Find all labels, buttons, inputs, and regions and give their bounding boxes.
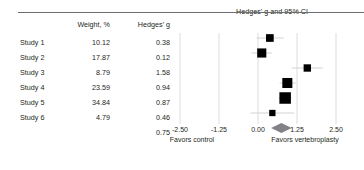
x-tick-label: 0.00 — [251, 126, 265, 133]
forest-plot-figure: Hedges' g and 95% CI Weight, % Hedges' g… — [0, 0, 364, 170]
axis-label-favors-vertebroplasty: Favors vertebroplasty — [271, 136, 338, 143]
study-weight: 23.59 — [52, 83, 110, 92]
x-tick-label: -2.50 — [172, 126, 188, 133]
study-weight: 10.12 — [52, 38, 110, 47]
study-hedges-g: 0.87 — [112, 98, 170, 107]
axis-label-favors-control: Favors control — [170, 136, 214, 143]
table-row: Study 4 23.59 0.94 — [0, 83, 180, 97]
table-row: Study 1 10.12 0.38 — [0, 38, 180, 52]
effect-size-marker — [257, 48, 266, 57]
study-weight: 17.87 — [52, 53, 110, 62]
effect-size-marker — [282, 78, 292, 88]
effect-size-marker — [269, 110, 275, 116]
effect-size-marker — [279, 92, 291, 104]
table-row: Study 3 8.79 1.58 — [0, 68, 180, 82]
header-divider — [18, 12, 364, 13]
column-header-hedges-g: Hedges' g — [112, 20, 170, 29]
results-table: Weight, % Hedges' g Study 1 10.12 0.38 S… — [0, 20, 180, 135]
summary-hedges-g: 0.75 — [112, 128, 170, 137]
effect-size-marker — [266, 34, 274, 42]
study-hedges-g: 0.12 — [112, 53, 170, 62]
study-hedges-g: 0.46 — [112, 113, 170, 122]
study-weight: 34.84 — [52, 98, 110, 107]
table-row: Study 2 17.87 0.12 — [0, 53, 180, 67]
table-row-summary: 0.75 — [0, 128, 180, 142]
x-tick-label: -1.25 — [211, 126, 227, 133]
effect-size-marker — [304, 64, 311, 71]
study-hedges-g: 0.94 — [112, 83, 170, 92]
x-tick-label: 1.25 — [290, 126, 304, 133]
summary-diamond-marker — [271, 123, 292, 133]
study-weight: 4.79 — [52, 113, 110, 122]
column-header-weight: Weight, % — [52, 20, 110, 29]
table-row: Study 6 4.79 0.46 — [0, 113, 180, 127]
study-weight: 8.79 — [52, 68, 110, 77]
study-hedges-g: 0.38 — [112, 38, 170, 47]
study-hedges-g: 1.58 — [112, 68, 170, 77]
x-tick-label: 2.50 — [329, 126, 343, 133]
table-row: Study 5 34.84 0.87 — [0, 98, 180, 112]
